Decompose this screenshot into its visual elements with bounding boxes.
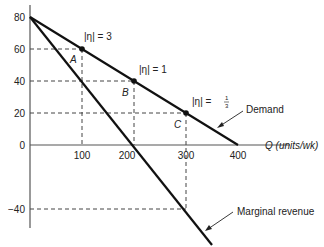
point-c <box>183 110 189 116</box>
x-axis-label: Q (units/wk) <box>265 140 318 151</box>
marginal-revenue-line <box>30 17 212 245</box>
elasticity-c-num: 1 <box>225 95 229 101</box>
x-tick-100: 100 <box>74 150 91 161</box>
y-tick-60: 60 <box>14 44 26 55</box>
point-b <box>131 78 137 84</box>
elasticity-b: |η| = 1 <box>139 64 167 75</box>
elasticity-c: |η| = <box>192 96 212 107</box>
mr-arrowhead-icon <box>205 225 212 231</box>
y-tick-20: 20 <box>14 108 26 119</box>
point-a-label: A <box>69 54 77 65</box>
demand-arrowhead-icon <box>217 122 224 128</box>
x-tick-400: 400 <box>230 150 247 161</box>
demand-mr-chart: A B C |η| = 3 |η| = 1 |η| = 1 3 80 60 40… <box>0 0 324 247</box>
y-tick-80: 80 <box>14 12 26 23</box>
demand-label: Demand <box>246 104 284 115</box>
y-tick-0: 0 <box>19 140 25 151</box>
elasticity-c-den: 3 <box>225 103 229 109</box>
point-c-label: C <box>174 119 182 130</box>
point-a <box>79 46 85 52</box>
y-tick-neg40: −40 <box>8 204 25 215</box>
point-b-label: B <box>122 87 129 98</box>
x-tick-200: 200 <box>119 150 136 161</box>
x-tick-300: 300 <box>178 150 195 161</box>
mr-label: Marginal revenue <box>237 206 315 217</box>
y-tick-40: 40 <box>14 76 26 87</box>
mr-arrow <box>208 212 233 229</box>
demand-arrow <box>220 111 243 126</box>
elasticity-a: |η| = 3 <box>84 31 112 42</box>
